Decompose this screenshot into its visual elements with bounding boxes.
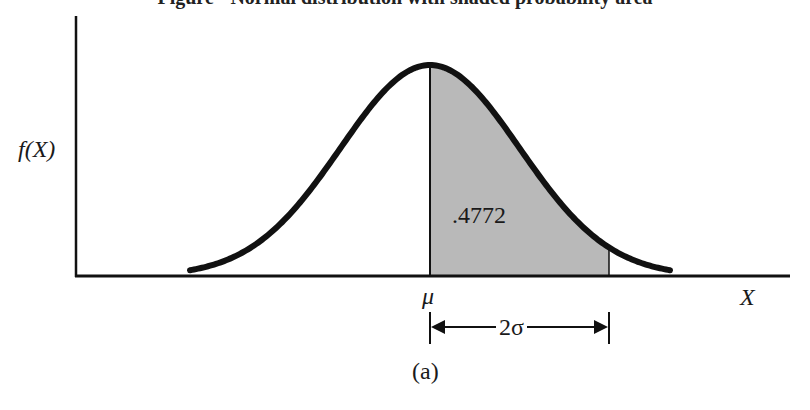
- shaded-area-value: .4772: [452, 202, 506, 229]
- arrow-left-icon: [431, 320, 445, 334]
- mean-label: μ: [422, 283, 434, 310]
- arrow-right-icon: [594, 320, 608, 334]
- interval-label: 2σ: [496, 314, 527, 341]
- panel-label: (a): [412, 358, 439, 385]
- y-axis-label: f(X): [18, 136, 55, 163]
- normal-curve-chart: [0, 0, 810, 410]
- shaded-area: [430, 65, 609, 276]
- x-axis-label: X: [740, 284, 755, 311]
